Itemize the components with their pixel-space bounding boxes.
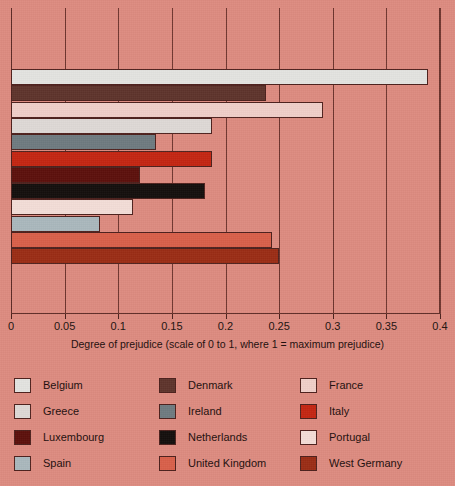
legend-label: United Kingdom [188, 457, 266, 469]
bar-united-kingdom [11, 232, 272, 248]
legend-label: Denmark [188, 379, 233, 391]
bar-ireland [11, 134, 156, 150]
chart-area: 00.050.10.150.20.250.30.350.4 Degree of … [0, 0, 455, 316]
legend-label: Spain [43, 457, 71, 469]
tick-mark [333, 314, 334, 319]
legend-item-luxembourg: Luxembourg [14, 424, 164, 450]
legend-swatch [300, 456, 317, 471]
legend-item-netherlands: Netherlands [159, 424, 309, 450]
legend-swatch [159, 404, 176, 419]
x-tick-label: 0.05 [54, 320, 75, 332]
tick-mark [440, 314, 441, 319]
legend-label: Greece [43, 405, 79, 417]
chart-legend: BelgiumGreeceLuxembourgSpain DenmarkIrel… [0, 372, 455, 484]
tick-mark [118, 314, 119, 319]
legend-swatch [159, 378, 176, 393]
legend-item-united-kingdom: United Kingdom [159, 450, 309, 476]
x-tick-label: 0.4 [432, 320, 447, 332]
bar-denmark [11, 85, 266, 101]
x-axis-title: Degree of prejudice (scale of 0 to 1, wh… [0, 338, 455, 350]
x-tick-label: 0.1 [111, 320, 126, 332]
tick-mark [172, 314, 173, 319]
legend-swatch [159, 456, 176, 471]
legend-label: Ireland [188, 405, 222, 417]
legend-swatch [300, 378, 317, 393]
legend-swatch [159, 430, 176, 445]
legend-item-belgium: Belgium [14, 372, 164, 398]
bar-greece [11, 118, 212, 134]
legend-label: West Germany [329, 457, 402, 469]
legend-label: Netherlands [188, 431, 247, 443]
legend-item-west-germany: West Germany [300, 450, 450, 476]
legend-label: Luxembourg [43, 431, 104, 443]
bar-series [11, 8, 440, 314]
legend-swatch [14, 378, 31, 393]
legend-item-france: France [300, 372, 450, 398]
bar-spain [11, 216, 100, 232]
x-axis-tick-labels: 00.050.10.150.20.250.30.350.4 [0, 320, 455, 336]
legend-item-spain: Spain [14, 450, 164, 476]
x-tick-label: 0.2 [218, 320, 233, 332]
tick-mark [11, 314, 12, 319]
x-tick-label: 0.15 [161, 320, 182, 332]
x-tick-label: 0 [8, 320, 14, 332]
bar-netherlands [11, 183, 205, 199]
legend-item-denmark: Denmark [159, 372, 309, 398]
legend-label: France [329, 379, 363, 391]
legend-label: Belgium [43, 379, 83, 391]
tick-mark [279, 314, 280, 319]
x-tick-label: 0.25 [268, 320, 289, 332]
legend-label: Italy [329, 405, 349, 417]
bar-italy [11, 151, 212, 167]
legend-item-ireland: Ireland [159, 398, 309, 424]
tick-mark [386, 314, 387, 319]
legend-swatch [14, 456, 31, 471]
x-tick-label: 0.35 [376, 320, 397, 332]
bar-france [11, 102, 323, 118]
bar-belgium [11, 69, 428, 85]
legend-swatch [14, 404, 31, 419]
legend-swatch [14, 430, 31, 445]
tick-mark [226, 314, 227, 319]
tick-mark [65, 314, 66, 319]
gridline [440, 8, 441, 314]
legend-item-italy: Italy [300, 398, 450, 424]
legend-swatch [300, 430, 317, 445]
legend-item-greece: Greece [14, 398, 164, 424]
legend-column-1: BelgiumGreeceLuxembourgSpain [14, 372, 164, 476]
x-tick-label: 0.3 [325, 320, 340, 332]
legend-column-2: DenmarkIrelandNetherlandsUnited Kingdom [159, 372, 309, 476]
legend-column-3: FranceItalyPortugalWest Germany [300, 372, 450, 476]
legend-label: Portugal [329, 431, 370, 443]
bar-portugal [11, 199, 133, 215]
legend-item-portugal: Portugal [300, 424, 450, 450]
bar-west-germany [11, 248, 279, 264]
bar-luxembourg [11, 167, 140, 183]
plot-region [11, 8, 440, 314]
legend-swatch [300, 404, 317, 419]
